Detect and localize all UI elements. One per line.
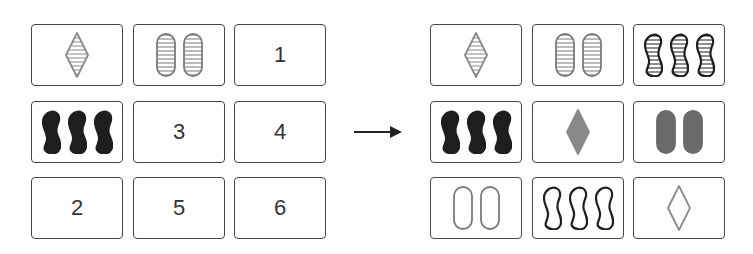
left-grid-card-r0c1 xyxy=(133,24,225,86)
oval-striped-icon xyxy=(183,32,203,78)
squiggle-solid-icon xyxy=(94,110,113,154)
squiggle-solid-icon xyxy=(42,110,61,154)
card-number-label: 4 xyxy=(274,121,286,143)
oval-solid-icon xyxy=(683,109,703,155)
squiggle-solid-icon xyxy=(493,110,512,154)
left-grid-card-r1c0 xyxy=(31,101,123,163)
right-grid-card-r1c0 xyxy=(430,101,522,163)
squiggle-striped-icon xyxy=(696,33,715,77)
right-grid-card-r0c0 xyxy=(430,24,522,86)
right-grid-card-r1c2 xyxy=(633,101,725,163)
squiggle-striped-icon xyxy=(670,33,689,77)
left-grid-card-r2c2: 6 xyxy=(234,177,326,239)
card-number-label: 3 xyxy=(173,121,185,143)
card-number-label: 1 xyxy=(274,44,286,66)
oval-striped-icon xyxy=(582,32,602,78)
left-grid-card-r0c2: 1 xyxy=(234,24,326,86)
diamond-striped-icon xyxy=(65,31,89,79)
squiggle-outline-icon xyxy=(595,186,614,230)
card-number-label: 5 xyxy=(173,197,185,219)
right-grid-card-r2c0 xyxy=(430,177,522,239)
diamond-outline-icon xyxy=(667,184,691,232)
left-grid-card-r2c0: 2 xyxy=(31,177,123,239)
oval-outline-icon xyxy=(480,185,500,231)
right-arrow-icon xyxy=(352,122,404,142)
right-grid-card-r0c2 xyxy=(633,24,725,86)
left-grid-card-r1c1: 3 xyxy=(133,101,225,163)
left-grid-card-r0c0 xyxy=(31,24,123,86)
right-grid-card-r1c1 xyxy=(532,101,624,163)
oval-striped-icon xyxy=(555,32,575,78)
oval-solid-icon xyxy=(656,109,676,155)
squiggle-solid-icon xyxy=(467,110,486,154)
card-number-label: 6 xyxy=(274,197,286,219)
diamond-striped-icon xyxy=(464,31,488,79)
card-number-label: 2 xyxy=(71,197,83,219)
squiggle-striped-icon xyxy=(644,33,663,77)
squiggle-outline-icon xyxy=(569,186,588,230)
left-grid-card-r1c2: 4 xyxy=(234,101,326,163)
oval-outline-icon xyxy=(453,185,473,231)
squiggle-solid-icon xyxy=(441,110,460,154)
right-grid-card-r2c1 xyxy=(532,177,624,239)
diamond-solid-icon xyxy=(566,108,590,156)
right-grid-card-r2c2 xyxy=(633,177,725,239)
left-grid-card-r2c1: 5 xyxy=(133,177,225,239)
squiggle-solid-icon xyxy=(68,110,87,154)
oval-striped-icon xyxy=(156,32,176,78)
squiggle-outline-icon xyxy=(543,186,562,230)
right-grid-card-r0c1 xyxy=(532,24,624,86)
